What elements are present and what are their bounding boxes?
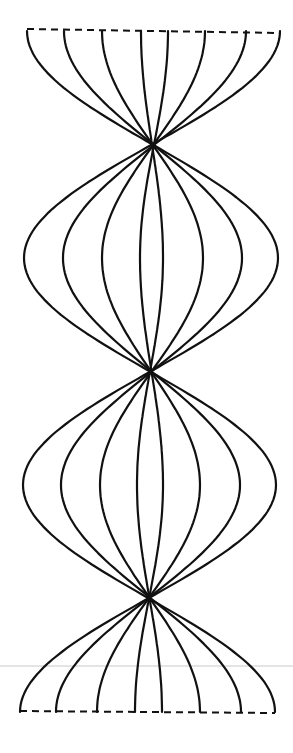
braid-diagram	[0, 0, 293, 753]
strands	[20, 31, 280, 712]
bottom-dashed-edge	[20, 711, 275, 713]
